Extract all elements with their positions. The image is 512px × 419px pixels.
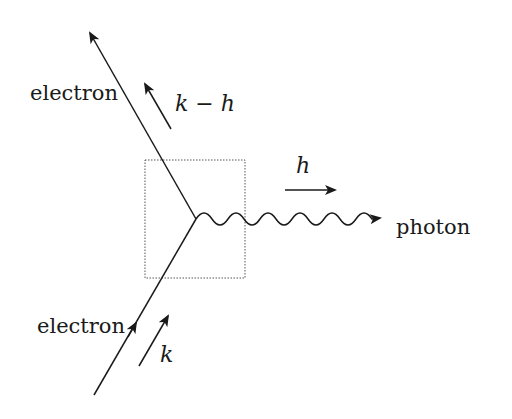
momentum-out-arrow-icon [145,84,171,129]
momentum-in-label: k [160,342,173,367]
interaction-region-box [145,160,245,278]
feynman-diagram: electron electron photon k − h k h [0,0,512,419]
incoming-electron-line [94,219,196,395]
electron-in-label: electron [37,314,125,338]
outgoing-electron-line [90,33,196,219]
photon-label: photon [396,215,470,239]
momentum-photon-label: h [296,153,310,178]
electron-out-label: electron [30,81,118,105]
incoming-electron-arrow-icon [128,323,136,337]
photon-wavy-line [196,213,380,225]
momentum-out-label: k − h [175,91,235,116]
